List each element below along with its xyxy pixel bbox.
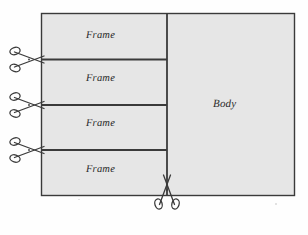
scan-speck: [275, 203, 277, 205]
body-label: Body: [213, 98, 236, 110]
scissors-frame-cut-3: [9, 137, 44, 164]
figure-canvas: Frame Frame Frame Frame Body: [0, 0, 308, 235]
diagram-svg: [0, 0, 308, 235]
scissors-frame-cut-1: [9, 46, 44, 73]
scan-speck: [78, 199, 80, 200]
frame-label-2: Frame: [86, 73, 115, 84]
frame-label-4: Frame: [86, 164, 115, 175]
frame-label-3: Frame: [86, 118, 115, 129]
frame-label-1: Frame: [86, 30, 115, 41]
scissors-frame-cut-2: [9, 92, 44, 119]
